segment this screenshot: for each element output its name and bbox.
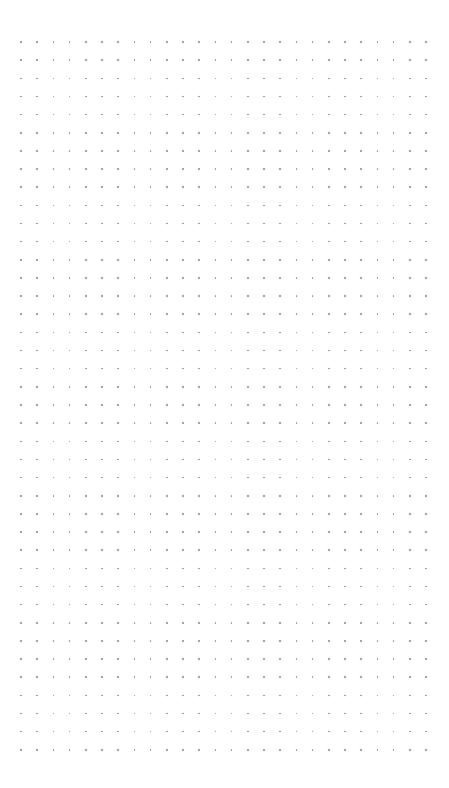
grid-dot (296, 568, 298, 570)
grid-dot (377, 441, 379, 443)
grid-dot (166, 59, 168, 61)
grid-dot (328, 223, 330, 225)
grid-dot (117, 713, 119, 715)
grid-dot (279, 658, 281, 660)
grid-dot (85, 96, 87, 98)
grid-dot (215, 477, 217, 479)
grid-dot (279, 459, 281, 461)
grid-dot (296, 295, 298, 297)
grid-dot (198, 223, 200, 225)
grid-dot (377, 658, 379, 660)
grid-dot (328, 259, 330, 261)
grid-dot (360, 332, 362, 334)
grid-dot (182, 640, 184, 642)
grid-dot (231, 441, 233, 443)
grid-dot (198, 295, 200, 297)
grid-dot (409, 604, 411, 606)
grid-dot (182, 549, 184, 551)
grid-dot (312, 531, 314, 533)
grid-dot (117, 477, 119, 479)
grid-dot (20, 386, 22, 388)
grid-dot (215, 350, 217, 352)
grid-dot (393, 713, 395, 715)
grid-dot (166, 332, 168, 334)
grid-dot (36, 259, 38, 261)
grid-dot (247, 332, 249, 334)
grid-dot (150, 241, 152, 243)
grid-dot (312, 695, 314, 697)
grid-dot (215, 622, 217, 624)
grid-dot (344, 223, 346, 225)
grid-dot (377, 422, 379, 424)
grid-dot (53, 223, 55, 225)
grid-dot (198, 441, 200, 443)
grid-dot (393, 477, 395, 479)
grid-dot (409, 59, 411, 61)
grid-dot (101, 386, 103, 388)
grid-dot (166, 459, 168, 461)
grid-dot (425, 622, 427, 624)
grid-dot (360, 186, 362, 188)
grid-dot (247, 114, 249, 116)
grid-dot (101, 168, 103, 170)
grid-dot (215, 513, 217, 515)
grid-dot (360, 313, 362, 315)
grid-dot (409, 695, 411, 697)
grid-dot (393, 749, 395, 751)
grid-dot (20, 676, 22, 678)
grid-dot (215, 713, 217, 715)
grid-dot (53, 150, 55, 152)
grid-dot (360, 422, 362, 424)
grid-dot (393, 313, 395, 315)
grid-dot (360, 404, 362, 406)
grid-dot (344, 150, 346, 152)
grid-dot (166, 477, 168, 479)
grid-dot (312, 96, 314, 98)
grid-dot (166, 531, 168, 533)
grid-dot (247, 495, 249, 497)
grid-dot (198, 59, 200, 61)
grid-dot (377, 695, 379, 697)
grid-dot (263, 549, 265, 551)
grid-dot (101, 586, 103, 588)
grid-dot (409, 132, 411, 134)
grid-dot (328, 132, 330, 134)
grid-dot (134, 568, 136, 570)
grid-dot (296, 277, 298, 279)
grid-dot (53, 477, 55, 479)
grid-dot (150, 713, 152, 715)
grid-dot (198, 422, 200, 424)
grid-dot (312, 495, 314, 497)
grid-dot (231, 604, 233, 606)
grid-dot (53, 186, 55, 188)
grid-dot (409, 713, 411, 715)
grid-dot (377, 731, 379, 733)
grid-dot (312, 604, 314, 606)
grid-dot (296, 59, 298, 61)
grid-dot (101, 695, 103, 697)
grid-dot (409, 441, 411, 443)
grid-dot (263, 150, 265, 152)
grid-dot (296, 676, 298, 678)
grid-dot (231, 78, 233, 80)
grid-dot (215, 731, 217, 733)
grid-dot (425, 459, 427, 461)
grid-dot (198, 622, 200, 624)
grid-dot (344, 186, 346, 188)
grid-dot (377, 41, 379, 43)
grid-dot (36, 513, 38, 515)
grid-dot (101, 495, 103, 497)
grid-dot (425, 531, 427, 533)
grid-dot (409, 495, 411, 497)
grid-dot (247, 150, 249, 152)
grid-dot (166, 241, 168, 243)
grid-dot (85, 350, 87, 352)
grid-dot (425, 132, 427, 134)
grid-dot (150, 205, 152, 207)
grid-dot (425, 259, 427, 261)
grid-dot (344, 459, 346, 461)
grid-dot (101, 150, 103, 152)
grid-dot (20, 41, 22, 43)
grid-dot (425, 186, 427, 188)
grid-dot (150, 41, 152, 43)
